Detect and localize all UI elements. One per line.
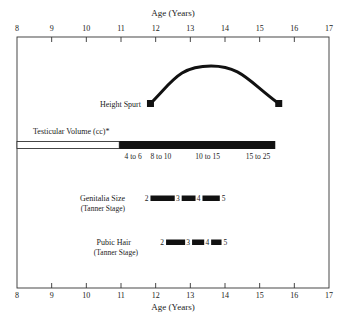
testicular-volume-pubertal-bar [119, 141, 275, 149]
top-tick-label: 13 [186, 24, 194, 33]
genitalia-stage-label: 3 [176, 194, 180, 203]
genitalia-stage-bars: 2345 [145, 194, 226, 203]
genitalia-stage-label: 5 [222, 194, 226, 203]
height-spurt-end-marker [275, 100, 282, 107]
genitalia-stage-bar [202, 196, 219, 202]
testicular-volume-label: Testicular Volume (cc)* [33, 127, 109, 136]
testicular-volume-prepubertal-bar [17, 142, 119, 149]
bottom-tick-label: 13 [186, 291, 194, 300]
pubic-hair-stage-bar [192, 240, 204, 246]
pubic-hair-stage-label: 3 [186, 238, 190, 247]
puberty-timeline-diagram: Age (Years) Age (Years) 8910111213141516… [0, 0, 344, 321]
top-tick-label: 10 [82, 24, 90, 33]
genitalia-stage-label: 2 [145, 194, 149, 203]
pubic-hair-stage-label: 2 [160, 238, 164, 247]
testicular-volume-annotations: 4 to 68 to 1010 to 1515 to 25 [125, 152, 271, 161]
pubic-hair-stage-bar [166, 240, 185, 246]
top-tick-label: 11 [117, 24, 125, 33]
top-tick-label: 16 [290, 24, 298, 33]
chart-frame [17, 37, 329, 288]
top-axis-ticks: 891011121314151617 [15, 24, 333, 42]
bottom-tick-label: 8 [15, 291, 19, 300]
genitalia-label: Genitalia Size [80, 194, 126, 203]
testicular-volume-range-label: 10 to 15 [195, 152, 220, 161]
bottom-tick-label: 12 [152, 291, 160, 300]
top-tick-label: 12 [152, 24, 160, 33]
pubic-hair-stage-bars: 2345 [160, 238, 227, 247]
genitalia-stage-label: 4 [197, 194, 201, 203]
genitalia-sublabel: (Tanner Stage) [81, 204, 126, 213]
bottom-tick-label: 14 [221, 291, 229, 300]
height-spurt-start-marker [147, 100, 154, 107]
bottom-axis-ticks: 891011121314151617 [15, 283, 333, 300]
axis-title-bottom: Age (Years) [151, 302, 194, 312]
bottom-tick-label: 15 [256, 291, 264, 300]
top-tick-label: 9 [50, 24, 54, 33]
axis-title-top: Age (Years) [151, 8, 194, 18]
bottom-tick-label: 11 [117, 291, 125, 300]
top-tick-label: 15 [256, 24, 264, 33]
testicular-volume-range-label: 15 to 25 [246, 152, 271, 161]
pubic-hair-stage-label: 4 [205, 238, 209, 247]
genitalia-stage-bar [182, 196, 196, 202]
genitalia-stage-bar [150, 196, 174, 202]
height-spurt-curve [150, 66, 278, 104]
top-tick-label: 8 [15, 24, 19, 33]
bottom-tick-label: 10 [82, 291, 90, 300]
pubic-hair-stage-label: 5 [224, 238, 228, 247]
testicular-volume-range-label: 4 to 6 [125, 152, 142, 161]
top-tick-label: 17 [325, 24, 333, 33]
bottom-tick-label: 17 [325, 291, 333, 300]
testicular-volume-range-label: 8 to 10 [150, 152, 171, 161]
pubic-hair-label: Pubic Hair [97, 238, 132, 247]
pubic-hair-stage-bar [211, 240, 221, 246]
height-spurt-label: Height Spurt [100, 100, 142, 109]
bottom-tick-label: 9 [50, 291, 54, 300]
top-tick-label: 14 [221, 24, 229, 33]
pubic-hair-sublabel: (Tanner Stage) [94, 248, 139, 257]
bottom-tick-label: 16 [290, 291, 298, 300]
